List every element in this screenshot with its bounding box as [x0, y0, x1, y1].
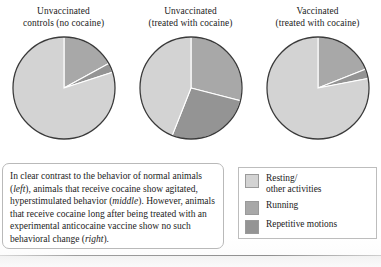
chart-title-3-line2: (treated with cocaine) [276, 18, 360, 28]
caption-part4: ). [103, 234, 109, 244]
chart-title-2-line2: (treated with cocaine) [149, 18, 233, 28]
chart-panel-unvaccinated-cocaine: Unvaccinated (treated with cocaine) [131, 6, 251, 142]
chart-title-1-line2: controls (no cocaine) [23, 18, 104, 28]
chart-title-2: Unvaccinated (treated with cocaine) [149, 6, 233, 29]
chart-panel-vaccinated-cocaine: Vaccinated (treated with cocaine) [258, 6, 378, 142]
chart-title-1: Unvaccinated controls (no cocaine) [23, 6, 104, 29]
bottom-margin [0, 256, 381, 267]
pie-chart-row: Unvaccinated controls (no cocaine) Unvac… [0, 6, 381, 158]
pie-chart-1 [10, 34, 118, 142]
pie-chart-2-svg [137, 34, 245, 142]
legend-label-resting-line1: Resting/ [266, 173, 297, 183]
chart-title-1-line1: Unvaccinated [37, 6, 90, 16]
caption-box: In clear contrast to the behavior of nor… [2, 163, 224, 249]
legend-item-running: Running [245, 200, 370, 215]
legend-item-repetitive: Repetitive motions [245, 219, 370, 234]
legend-item-resting: Resting/ other activities [245, 173, 370, 196]
caption-em-left: left [13, 184, 25, 194]
legend-box: Resting/ other activities Running Repeti… [238, 167, 377, 239]
legend-swatch-running-icon [245, 201, 259, 215]
legend-label-repetitive: Repetitive motions [266, 219, 337, 230]
caption-text: In clear contrast to the behavior of nor… [10, 170, 216, 246]
pie-chart-2 [137, 34, 245, 142]
chart-panel-unvaccinated-controls: Unvaccinated controls (no cocaine) [4, 6, 124, 142]
figure-page: Unvaccinated controls (no cocaine) Unvac… [0, 0, 381, 267]
pie-chart-1-svg [10, 34, 118, 142]
chart-title-3-line1: Vaccinated [296, 6, 338, 16]
chart-title-2-line1: Unvaccinated [164, 6, 217, 16]
legend-swatch-repetitive-icon [245, 220, 259, 234]
legend-label-running: Running [266, 200, 298, 211]
legend-label-resting-line2: other activities [266, 184, 321, 194]
caption-em-middle: middle [112, 196, 138, 206]
pie-chart-3 [264, 34, 372, 142]
legend-label-resting: Resting/ other activities [266, 173, 321, 196]
legend-swatch-resting-icon [245, 174, 259, 188]
chart-title-3: Vaccinated (treated with cocaine) [276, 6, 360, 29]
pie-chart-3-svg [264, 34, 372, 142]
caption-em-right: right [85, 234, 103, 244]
